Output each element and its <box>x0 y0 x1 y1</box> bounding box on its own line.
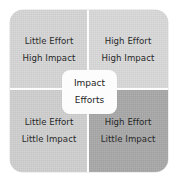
quadrant-label-line2: Little Impact <box>101 135 156 144</box>
quadrant-label-line1: High Effort <box>105 118 152 127</box>
quadrant-label-line1: High Effort <box>105 37 152 46</box>
quadrant-label-line2: Little Impact <box>22 135 77 144</box>
center-label-efforts: Efforts <box>75 96 104 105</box>
center-label-impact: Impact <box>74 79 105 88</box>
quadrant-label-line1: Little Effort <box>25 118 74 127</box>
quadrant-label-line1: Little Effort <box>25 37 74 46</box>
center-label-box[interactable]: Impact Efforts <box>62 70 117 114</box>
quadrant-label-line2: High Impact <box>23 54 76 63</box>
diagram-canvas: Little Effort High Impact High Effort Hi… <box>0 0 179 184</box>
quadrant-label-line2: High Impact <box>102 54 155 63</box>
